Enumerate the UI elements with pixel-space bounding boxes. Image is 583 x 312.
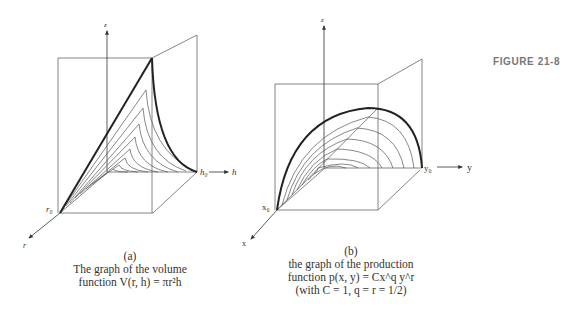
figure-number-label: FIGURE 21-8 xyxy=(493,56,560,67)
caption-b: (b) the graph of the production function… xyxy=(280,245,422,297)
panel-b-production-graph xyxy=(251,26,462,239)
box-edge xyxy=(378,59,422,84)
svg-text:r: r xyxy=(23,241,27,250)
box-edge xyxy=(378,170,420,210)
caption-a-line2: function V(r, h) = πr²h xyxy=(60,276,200,289)
svg-text:r₀: r₀ xyxy=(46,204,53,214)
panel-a-axis-labels: z h₀ h r₀ r xyxy=(23,21,237,250)
svg-text:h₀: h₀ xyxy=(200,167,208,177)
boundary-line xyxy=(60,58,152,213)
svg-text:z: z xyxy=(320,16,324,24)
caption-a-tag: (a) xyxy=(60,250,200,263)
svg-text:y: y xyxy=(467,162,472,173)
caption-b-tag: (b) xyxy=(280,245,422,258)
box-edge xyxy=(153,172,197,213)
svg-text:z: z xyxy=(103,21,107,29)
r-axis xyxy=(29,213,60,238)
boundary-curve xyxy=(152,58,197,172)
level-curves xyxy=(282,117,414,205)
level-curves xyxy=(62,90,193,210)
svg-text:x: x xyxy=(242,239,246,248)
caption-b-line1: the graph of the production xyxy=(280,258,422,271)
svg-text:y₀: y₀ xyxy=(424,163,432,173)
x-axis xyxy=(251,210,277,239)
svg-text:h: h xyxy=(232,167,237,177)
caption-b-line2: function p(x, y) = Cx^q y^r xyxy=(280,271,422,284)
panel-a-volume-graph xyxy=(29,31,228,238)
svg-text:x₀: x₀ xyxy=(262,202,270,212)
caption-b-line3: (with C = 1, q = r = 1/2) xyxy=(280,284,422,297)
caption-a: (a) The graph of the volume function V(r… xyxy=(60,250,200,289)
panel-b-axis-labels: z y₀ y x₀ x xyxy=(242,16,472,248)
box-edge xyxy=(152,35,197,58)
caption-a-line1: The graph of the volume xyxy=(60,263,200,276)
